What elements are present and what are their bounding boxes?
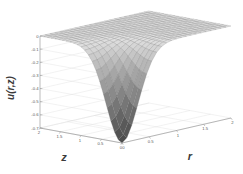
u-tick-3: -0.3 <box>31 73 39 78</box>
r-tick-3: 1.5 <box>202 126 208 131</box>
r-tick-0: 0 <box>122 145 125 150</box>
r-tick-2: 1 <box>177 133 180 138</box>
r-tick-1: 0.5 <box>148 139 154 144</box>
plot-canvas: 0-0.1-0.2-0.3-0.4-0.5-0.6-0.721.510.5000… <box>0 0 243 174</box>
r-tick-4: 2 <box>231 120 234 125</box>
z-tick-1: 1.5 <box>57 134 63 139</box>
surface-plot-figure: 0-0.1-0.2-0.3-0.4-0.5-0.6-0.721.510.5000… <box>0 0 243 174</box>
u-tick-5: -0.5 <box>31 99 39 104</box>
vertical-axis-title: u(r,z) <box>5 75 16 100</box>
z-tick-3: 0.5 <box>98 141 104 146</box>
z-tick-2: 1 <box>79 138 82 143</box>
u-tick-4: -0.4 <box>31 86 39 91</box>
u-tick-1: -0.1 <box>31 47 39 52</box>
u-tick-0: 0 <box>36 34 39 39</box>
z-axis-title: z <box>60 151 67 163</box>
surface-mesh <box>40 11 231 143</box>
z-tick-0: 2 <box>38 130 41 135</box>
r-axis-title: r <box>188 150 193 162</box>
u-tick-2: -0.2 <box>31 60 39 65</box>
u-tick-6: -0.6 <box>31 112 39 117</box>
